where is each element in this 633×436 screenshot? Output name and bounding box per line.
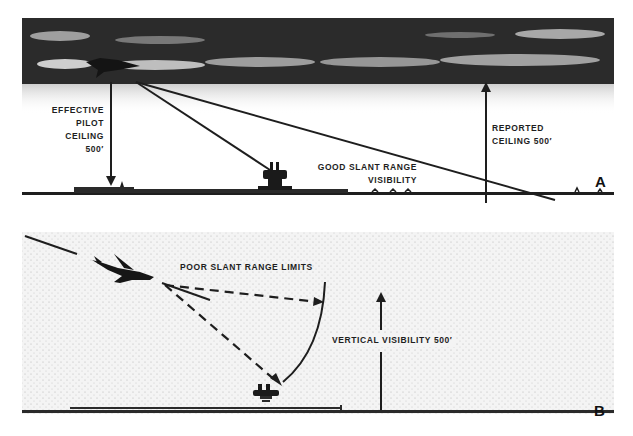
panel-b-illustration [0, 210, 633, 436]
label-line: VISIBILITY [293, 174, 417, 187]
label-line: CEILING 500′ [492, 135, 552, 148]
panel-a-good-slant-range: EFFECTIVE PILOT CEILING 500′ GOOD SLANT … [0, 0, 633, 210]
panel-b-poor-slant-range: POOR SLANT RANGE LIMITS VERTICAL VISIBIL… [0, 210, 633, 436]
effective-pilot-ceiling-label: EFFECTIVE PILOT CEILING 500′ [40, 104, 104, 156]
vertical-visibility-label: VERTICAL VISIBILITY 500′ [330, 334, 455, 347]
poor-slant-range-label: POOR SLANT RANGE LIMITS [180, 261, 313, 274]
label-line: 500′ [40, 143, 104, 156]
label-line: CEILING [40, 130, 104, 143]
panel-letter-b: B [594, 402, 605, 419]
label-line: REPORTED [492, 122, 552, 135]
label-line: GOOD SLANT RANGE [293, 161, 417, 174]
label-line: PILOT [40, 117, 104, 130]
fog-area [22, 232, 614, 414]
label-line: EFFECTIVE [40, 104, 104, 117]
good-slant-range-label: GOOD SLANT RANGE VISIBILITY [293, 161, 417, 187]
panel-letter-a: A [595, 173, 606, 190]
reported-ceiling-label: REPORTED CEILING 500′ [492, 122, 552, 148]
